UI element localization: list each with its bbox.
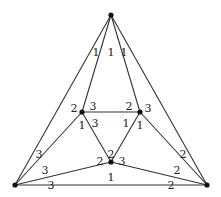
angle-label: 2 bbox=[180, 148, 187, 161]
angle-label: 2 bbox=[108, 148, 115, 161]
node-top bbox=[108, 12, 113, 17]
angle-label: 2 bbox=[126, 100, 133, 113]
edge-top-inner-right bbox=[111, 15, 140, 112]
angle-label: 3 bbox=[119, 155, 126, 168]
angle-label: 2 bbox=[71, 102, 78, 115]
graph-canvas: 111232313112231333222 bbox=[0, 0, 221, 197]
nodes-layer bbox=[12, 12, 209, 187]
node-inner-right bbox=[137, 109, 142, 114]
angle-label: 1 bbox=[79, 119, 86, 132]
angle-label: 3 bbox=[48, 179, 55, 192]
angle-label: 2 bbox=[174, 164, 181, 177]
edge-top-inner-left bbox=[82, 15, 111, 112]
node-outer-left bbox=[12, 182, 17, 187]
labels-layer: 111232313112231333222 bbox=[36, 46, 187, 192]
angle-label: 1 bbox=[93, 46, 100, 59]
angle-label: 3 bbox=[90, 100, 97, 113]
angle-label: 3 bbox=[145, 102, 152, 115]
angle-label: 2 bbox=[168, 179, 175, 192]
edge-inner-left-outer-left bbox=[15, 112, 82, 185]
angle-label: 3 bbox=[42, 164, 49, 177]
angle-label: 3 bbox=[36, 148, 43, 161]
node-outer-right bbox=[204, 182, 209, 187]
angle-label: 1 bbox=[121, 46, 128, 59]
node-inner-left bbox=[79, 109, 84, 114]
graph-diagram: 111232313112231333222 bbox=[0, 0, 221, 197]
angle-label: 3 bbox=[92, 117, 99, 130]
angle-label: 1 bbox=[108, 46, 115, 59]
angle-label: 1 bbox=[108, 171, 115, 184]
angle-label: 1 bbox=[137, 119, 144, 132]
angle-label: 1 bbox=[123, 117, 130, 130]
angle-label: 2 bbox=[97, 155, 104, 168]
